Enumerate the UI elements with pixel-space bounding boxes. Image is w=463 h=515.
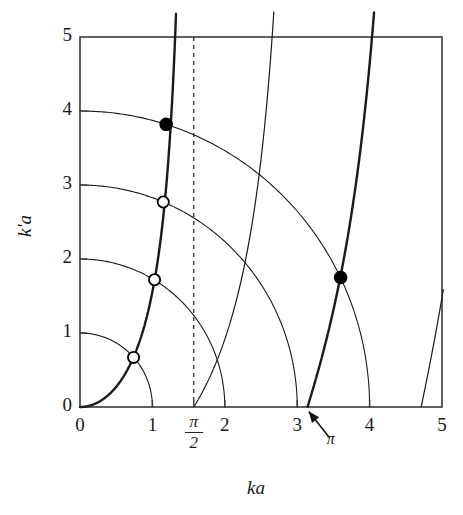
x-tick-label-5: 5 [436, 414, 448, 436]
y-tick-label-2: 2 [56, 246, 72, 268]
pi-arrow-head [309, 411, 319, 423]
x-tick-label-1: 1 [146, 414, 158, 436]
arc-r4 [80, 111, 370, 407]
x-tick-label-4: 4 [364, 414, 376, 436]
x-tick-label-3: 3 [291, 414, 303, 436]
y-axis-title: k'a [14, 215, 36, 237]
marker-bound-state-1[interactable] [128, 352, 139, 363]
half-pi-numerator: π [183, 413, 205, 431]
pi-annotation-label: π [327, 430, 335, 448]
y-tick-label-1: 1 [56, 320, 72, 342]
x-tick-label-2: 2 [219, 414, 231, 436]
x-tick-label-0: 0 [74, 414, 86, 436]
marker-bound-state-4[interactable] [160, 118, 172, 130]
figure-root: 012345012345π2πkak'a [0, 0, 463, 515]
half-pi-denominator: 2 [183, 434, 205, 452]
tick-marks [80, 111, 370, 407]
circle-arcs [80, 111, 370, 407]
y-tick-label-5: 5 [56, 24, 72, 46]
arc-r1 [80, 333, 152, 407]
marker-bound-state-5[interactable] [334, 271, 346, 283]
y-tick-label-3: 3 [56, 172, 72, 194]
transcendental-curves [80, 12, 443, 407]
marker-bound-state-3[interactable] [158, 196, 169, 207]
even-branch-0 [80, 14, 176, 407]
arc-r3 [80, 185, 297, 407]
half-pi-fraction: π2 [183, 413, 205, 452]
marker-bound-state-2[interactable] [149, 274, 160, 285]
odd-branch-2 [421, 290, 443, 407]
odd-branch-1 [194, 12, 274, 407]
x-axis-title: ka [247, 477, 265, 499]
y-tick-label-0: 0 [56, 394, 72, 416]
y-tick-label-4: 4 [56, 98, 72, 120]
